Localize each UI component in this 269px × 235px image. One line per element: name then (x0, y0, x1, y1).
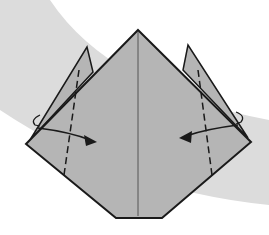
diagram-canvas (0, 0, 269, 235)
origami-diagram (0, 0, 269, 235)
